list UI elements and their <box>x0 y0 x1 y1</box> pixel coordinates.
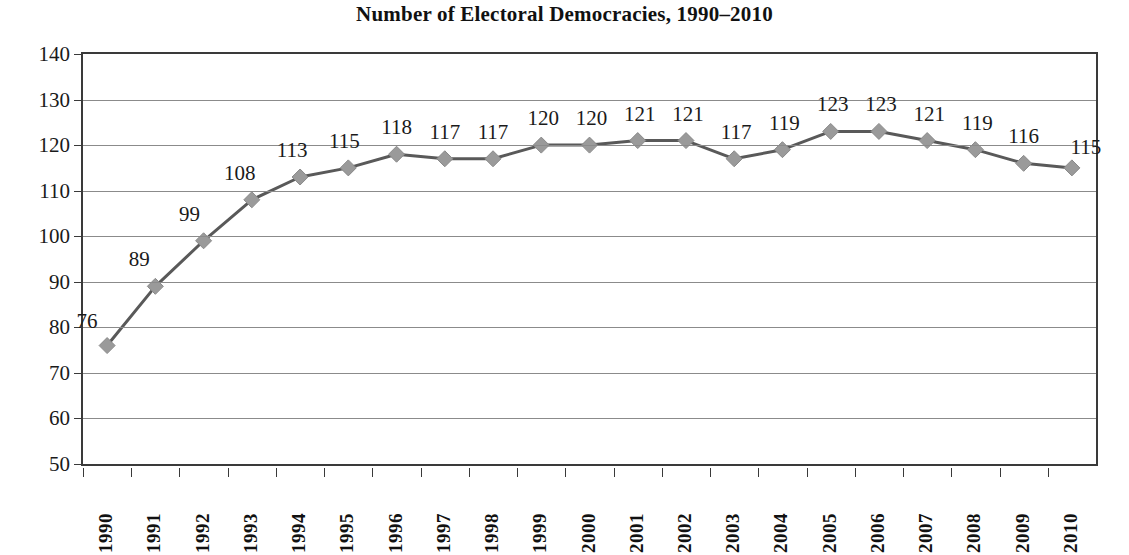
gridline <box>83 236 1096 237</box>
data-point-marker[interactable] <box>823 123 839 139</box>
x-axis-tick-label: 1995 <box>336 475 356 553</box>
gridline <box>83 100 1096 101</box>
x-axis-tick-label: 2008 <box>963 475 983 553</box>
y-axis-tick-label: 70 <box>8 360 70 385</box>
x-axis-labels: 1990199119921993199419951996199719981999… <box>81 475 1098 553</box>
x-axis-tick-label: 1996 <box>385 475 405 553</box>
chart-title: Number of Electoral Democracies, 1990–20… <box>0 2 1129 27</box>
x-axis-tick-label: 2001 <box>626 475 646 553</box>
y-axis-tick <box>74 282 83 283</box>
data-point-marker[interactable] <box>1064 160 1080 176</box>
data-point-marker[interactable] <box>389 146 405 162</box>
x-axis-tick-label: 1994 <box>288 475 308 553</box>
y-axis-tick-label: 100 <box>8 224 70 249</box>
data-point-marker[interactable] <box>919 133 935 149</box>
x-axis-tick-label: 1997 <box>433 475 453 553</box>
gridline <box>83 282 1096 283</box>
y-axis-tick <box>74 54 83 55</box>
data-point-marker[interactable] <box>1016 155 1032 171</box>
data-point-marker[interactable] <box>485 151 501 167</box>
data-point-marker[interactable] <box>774 142 790 158</box>
gridline <box>83 145 1096 146</box>
gridline <box>83 327 1096 328</box>
data-point-marker[interactable] <box>340 160 356 176</box>
data-point-marker[interactable] <box>630 133 646 149</box>
x-axis-tick-label: 1992 <box>192 475 212 553</box>
y-axis-tick-label: 60 <box>8 406 70 431</box>
x-axis-tick-label: 1991 <box>143 475 163 553</box>
plot-area: 7689991081131151181171171201201211211171… <box>81 52 1098 466</box>
y-axis-tick-label: 90 <box>8 269 70 294</box>
y-axis-tick-label: 110 <box>8 178 70 203</box>
y-axis-tick-label: 120 <box>8 133 70 158</box>
x-axis-tick-label: 1993 <box>240 475 260 553</box>
y-axis-tick <box>74 145 83 146</box>
x-axis-tick-label: 2006 <box>867 475 887 553</box>
x-axis-tick-label: 2005 <box>819 475 839 553</box>
data-point-marker[interactable] <box>967 142 983 158</box>
y-axis-tick <box>74 373 83 374</box>
x-axis-tick-label: 2010 <box>1060 475 1080 553</box>
y-axis-tick-label: 130 <box>8 87 70 112</box>
data-point-marker[interactable] <box>726 151 742 167</box>
y-axis-tick <box>74 191 83 192</box>
gridline <box>83 418 1096 419</box>
x-axis-tick-label: 2009 <box>1012 475 1032 553</box>
data-point-marker[interactable] <box>292 169 308 185</box>
y-axis-tick-label: 80 <box>8 315 70 340</box>
series-polyline <box>107 131 1072 345</box>
x-axis-tick-label: 2007 <box>915 475 935 553</box>
x-axis-tick-label: 2003 <box>722 475 742 553</box>
gridline <box>83 191 1096 192</box>
x-axis-tick-label: 1998 <box>481 475 501 553</box>
series-line <box>83 54 1096 464</box>
x-axis-tick-label: 2002 <box>674 475 694 553</box>
x-axis-tick-label: 1999 <box>529 475 549 553</box>
gridline <box>83 373 1096 374</box>
x-axis-tick-label: 2000 <box>578 475 598 553</box>
y-axis-tick-label: 50 <box>8 452 70 477</box>
y-axis-labels: 1401301201101009080706050 <box>0 52 74 466</box>
x-axis-tick-label: 1990 <box>95 475 115 553</box>
y-axis-tick <box>74 100 83 101</box>
data-point-marker[interactable] <box>678 133 694 149</box>
y-axis-tick-label: 140 <box>8 42 70 67</box>
chart-container: Number of Electoral Democracies, 1990–20… <box>0 0 1129 555</box>
y-axis-tick <box>74 236 83 237</box>
data-point-marker[interactable] <box>437 151 453 167</box>
x-axis-tick-label: 2004 <box>770 475 790 553</box>
data-point-marker[interactable] <box>871 123 887 139</box>
y-axis-tick <box>74 464 83 465</box>
y-axis-tick <box>74 418 83 419</box>
y-axis-tick <box>74 327 83 328</box>
